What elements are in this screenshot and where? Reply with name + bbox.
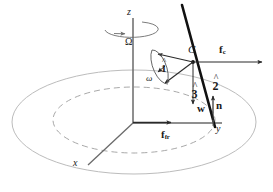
x-axis-line <box>88 123 133 165</box>
diagram-canvas <box>0 0 273 192</box>
omega-capital-label: Ω <box>125 37 132 47</box>
x-axis-label: x <box>73 158 77 168</box>
unit-vector-2-label: 2 <box>213 80 219 92</box>
physics-diagram-rotating-frame: z Ω ω x y C 1 2 3 fc ffr w n <box>0 0 273 192</box>
normal-force-label: n <box>216 100 222 111</box>
coriolis-force-subscript: c <box>223 48 226 55</box>
omega-small-label: ω <box>146 74 152 83</box>
omega-rotation-arc-tail <box>142 22 158 28</box>
weight-label: w <box>197 103 205 114</box>
z-axis-label: z <box>127 7 131 17</box>
point-c-label: C <box>188 44 195 55</box>
friction-force-subscript: fr <box>165 133 170 140</box>
unit-vector-3-label: 3 <box>192 88 198 100</box>
friction-force-label: ffr <box>161 129 170 141</box>
coriolis-force-label: fc <box>219 44 226 56</box>
y-axis-label: y <box>216 124 220 134</box>
unit-vector-1-label: 1 <box>161 63 167 74</box>
